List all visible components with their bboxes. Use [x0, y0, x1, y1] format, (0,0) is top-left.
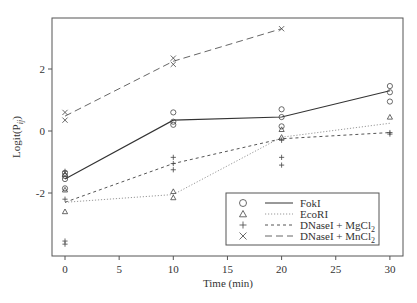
- x-axis-label: Time (min): [203, 277, 253, 290]
- x-tick-label: 30: [384, 263, 396, 275]
- x-tick-label: 0: [62, 263, 68, 275]
- y-tick-label: -2: [36, 187, 45, 199]
- legend: FokIEcoRIDNaseI + MgCl2DNaseI + MnCl2: [226, 193, 379, 245]
- chart: 051015202530 -202 Time (min) Logit(Pij) …: [0, 0, 417, 303]
- x-tick-label: 20: [276, 263, 288, 275]
- y-axis-label: Logit(Pij): [10, 116, 25, 158]
- series-line: [65, 29, 282, 116]
- x-tick-label: 25: [330, 263, 342, 275]
- series-line: [65, 133, 390, 203]
- series-line: [65, 123, 390, 202]
- figure-caption-cutoff: [0, 296, 417, 303]
- x-tick-label: 5: [116, 263, 122, 275]
- series-line: [65, 91, 390, 179]
- y-tick-label: 2: [40, 63, 46, 75]
- series-lines: [65, 29, 390, 203]
- y-tick-label: 0: [40, 125, 46, 137]
- x-axis: 051015202530: [62, 256, 396, 275]
- y-axis: -202: [36, 63, 52, 199]
- x-tick-label: 10: [168, 263, 180, 275]
- x-tick-label: 15: [222, 263, 234, 275]
